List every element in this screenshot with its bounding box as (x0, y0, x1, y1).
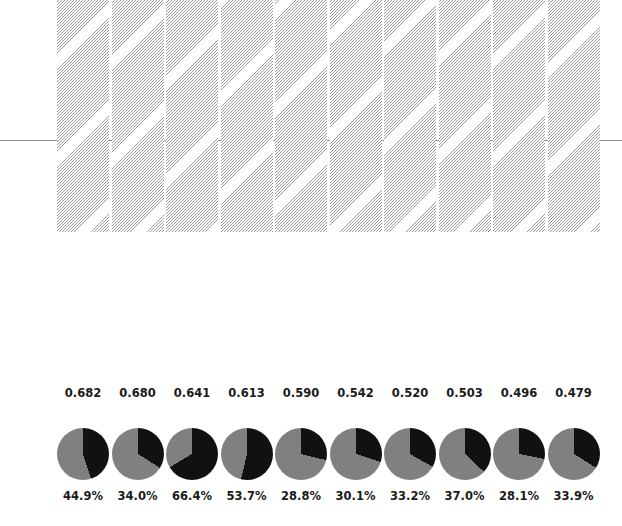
bar-5[interactable] (275, 0, 327, 232)
pie-chart-7[interactable] (384, 428, 436, 480)
bar-8[interactable] (439, 0, 491, 232)
bar-value-label: 0.542 (330, 386, 382, 400)
bar-value-label: 0.496 (493, 386, 545, 400)
bar-9[interactable] (493, 0, 545, 232)
bar-value-label: 0.590 (275, 386, 327, 400)
pie-chart-9[interactable] (493, 428, 545, 480)
pie-chart-1[interactable] (57, 428, 109, 480)
bar-value-label: 0.680 (112, 386, 164, 400)
pie-chart-10[interactable] (548, 428, 600, 480)
bar-3[interactable] (166, 0, 218, 232)
pie-percent-label: 66.4% (166, 489, 218, 503)
bar-value-label: 0.613 (221, 386, 273, 400)
bar-4[interactable] (221, 0, 273, 232)
bar-chart-panel (0, 0, 622, 380)
bar-10[interactable] (548, 0, 600, 232)
pie-chart-6[interactable] (330, 428, 382, 480)
pie-chart-4[interactable] (221, 428, 273, 480)
pie-percent-label: 30.1% (330, 489, 382, 503)
pie-chart-2[interactable] (112, 428, 164, 480)
bar-value-label: 0.503 (439, 386, 491, 400)
bar-value-label: 0.520 (384, 386, 436, 400)
bar-1[interactable] (57, 0, 109, 232)
pie-percent-label: 28.8% (275, 489, 327, 503)
pie-percent-label: 37.0% (439, 489, 491, 503)
pie-percent-label: 28.1% (493, 489, 545, 503)
pie-chart-3[interactable] (166, 428, 218, 480)
bar-2[interactable] (112, 0, 164, 232)
bar-6[interactable] (330, 0, 382, 232)
bar-value-label: 0.682 (57, 386, 109, 400)
pie-percent-label: 33.2% (384, 489, 436, 503)
pie-chart-8[interactable] (439, 428, 491, 480)
pie-percent-label: 44.9% (57, 489, 109, 503)
pie-percent-label: 53.7% (221, 489, 273, 503)
figure-canvas: 0.682 0.680 0.641 0.613 0.590 0.542 0.52… (0, 0, 622, 526)
pie-percent-label: 33.9% (548, 489, 600, 503)
pie-chart-5[interactable] (275, 428, 327, 480)
bar-value-label: 0.479 (548, 386, 600, 400)
bar-value-label: 0.641 (166, 386, 218, 400)
bar-7[interactable] (384, 0, 436, 232)
pie-percent-label: 34.0% (112, 489, 164, 503)
